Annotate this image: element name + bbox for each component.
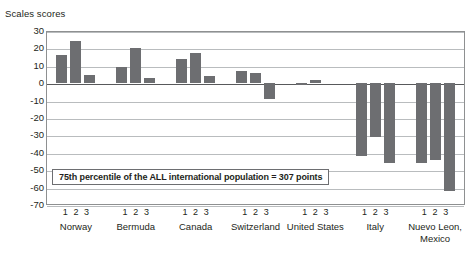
y-tick-label: 30 bbox=[4, 26, 44, 36]
y-tick-label: -30 bbox=[4, 130, 44, 140]
gridline bbox=[47, 136, 464, 137]
category-label-line: United States bbox=[287, 221, 344, 232]
category-group: 1 2 3Switzerland bbox=[226, 206, 286, 233]
category-group: 1 2 3United States bbox=[285, 206, 345, 233]
series-tick-labels: 1 2 3 bbox=[106, 206, 166, 218]
category-label-line: Nuevo Leon, bbox=[408, 221, 462, 232]
y-tick-label: 20 bbox=[4, 43, 44, 53]
category-group: 1 2 3Italy bbox=[345, 206, 405, 233]
series-tick-labels: 1 2 3 bbox=[285, 206, 345, 218]
gridline bbox=[47, 49, 464, 50]
category-group: 1 2 3Canada bbox=[166, 206, 226, 233]
scales-scores-bar-chart: Scales scores 3020100-10-20-30-40-50-60-… bbox=[0, 0, 473, 272]
gridline bbox=[47, 119, 464, 120]
zero-line bbox=[47, 84, 464, 85]
gridline bbox=[47, 102, 464, 103]
category-label: Nuevo Leon,Mexico bbox=[405, 221, 465, 244]
category-label-line: Bermuda bbox=[116, 221, 155, 232]
y-axis-title: Scales scores bbox=[5, 8, 65, 19]
gridline bbox=[47, 189, 464, 190]
category-label: Norway bbox=[46, 221, 106, 233]
series-tick-labels: 1 2 3 bbox=[345, 206, 405, 218]
category-label-line: Norway bbox=[60, 221, 92, 232]
category-label: Canada bbox=[166, 221, 226, 233]
x-axis-category-labels: 1 2 3Norway1 2 3Bermuda1 2 3Canada1 2 3S… bbox=[46, 206, 465, 270]
gridline bbox=[47, 154, 464, 155]
category-group: 1 2 3Nuevo Leon,Mexico bbox=[405, 206, 465, 244]
category-label: United States bbox=[285, 221, 345, 233]
gridline bbox=[47, 67, 464, 68]
y-tick-label: -50 bbox=[4, 165, 44, 175]
category-group: 1 2 3Norway bbox=[46, 206, 106, 233]
gridline bbox=[47, 32, 464, 33]
series-tick-labels: 1 2 3 bbox=[46, 206, 106, 218]
category-label-line: Canada bbox=[179, 221, 212, 232]
category-group: 1 2 3Bermuda bbox=[106, 206, 166, 233]
y-tick-label: 10 bbox=[4, 61, 44, 71]
y-tick-label: 0 bbox=[4, 78, 44, 88]
y-tick-label: -60 bbox=[4, 183, 44, 193]
category-label: Bermuda bbox=[106, 221, 166, 233]
category-label-line: Switzerland bbox=[231, 221, 280, 232]
series-tick-labels: 1 2 3 bbox=[166, 206, 226, 218]
category-label: Switzerland bbox=[226, 221, 286, 233]
series-tick-labels: 1 2 3 bbox=[405, 206, 465, 218]
percentile-annotation: 75th percentile of the ALL international… bbox=[52, 169, 329, 185]
y-tick-label: -70 bbox=[4, 200, 44, 210]
category-label-line: Mexico bbox=[405, 233, 465, 245]
y-tick-label: -10 bbox=[4, 96, 44, 106]
category-label-line: Italy bbox=[366, 221, 383, 232]
series-tick-labels: 1 2 3 bbox=[226, 206, 286, 218]
y-tick-label: -20 bbox=[4, 113, 44, 123]
category-label: Italy bbox=[345, 221, 405, 233]
y-tick-label: -40 bbox=[4, 148, 44, 158]
